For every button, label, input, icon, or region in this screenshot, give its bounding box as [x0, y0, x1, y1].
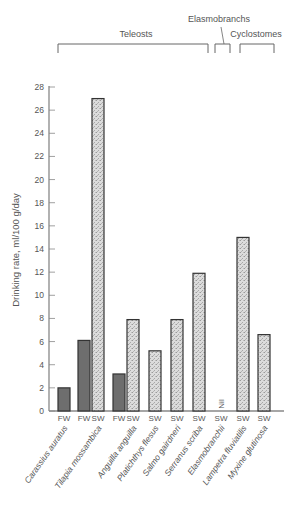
bar-sw: [237, 237, 249, 411]
group-bracket-cyclostomes: Cyclostomes: [230, 29, 282, 53]
y-tick-label: 6: [39, 337, 44, 347]
bar-fw: [113, 374, 125, 411]
bar-sw: [193, 273, 205, 411]
bar-sw: Nil: [217, 399, 226, 409]
medium-label: FW: [113, 414, 126, 423]
medium-label: FW: [58, 414, 71, 423]
group-brackets: TeleostsElasmobranchsCyclostomes: [58, 14, 282, 53]
y-tick-label: 26: [35, 105, 45, 115]
y-tick-label: 28: [35, 82, 45, 92]
medium-label: SW: [149, 414, 162, 423]
group-label: Teleosts: [119, 29, 153, 39]
bar-sw: [149, 351, 161, 411]
x-axis-labels: FWCarassius auratusFWSWTilapia mossambic…: [22, 414, 271, 491]
bars: Nil: [58, 99, 270, 411]
bar-fw: [78, 340, 90, 411]
drinking-rate-chart: TeleostsElasmobranchsCyclostomes 0246810…: [0, 0, 299, 511]
medium-label: SW: [237, 414, 250, 423]
bar-sw: [92, 99, 104, 411]
y-tick-label: 8: [39, 313, 44, 323]
y-tick-label: 0: [39, 406, 44, 416]
bar-sw: [258, 335, 270, 411]
y-tick-label: 12: [35, 267, 45, 277]
medium-label: FW: [78, 414, 91, 423]
group-label: Elasmobranchs: [188, 14, 251, 24]
y-axis-label: Drinking rate, ml/100 g/day: [10, 193, 21, 307]
y-tick-label: 4: [39, 360, 44, 370]
nil-annotation: Nil: [217, 399, 226, 409]
group-bracket-teleosts: Teleosts: [58, 29, 208, 53]
y-tick-label: 2: [39, 383, 44, 393]
medium-label: SW: [258, 414, 271, 423]
medium-label: SW: [171, 414, 184, 423]
y-tick-label: 16: [35, 221, 45, 231]
bar-sw: [127, 320, 139, 411]
y-tick-label: 22: [35, 151, 45, 161]
medium-label: SW: [193, 414, 206, 423]
y-tick-label: 24: [35, 128, 45, 138]
group-label: Cyclostomes: [230, 29, 282, 39]
y-tick-label: 14: [35, 244, 45, 254]
medium-label: SW: [215, 414, 228, 423]
medium-label: SW: [127, 414, 140, 423]
y-tick-label: 20: [35, 175, 45, 185]
y-tick-label: 18: [35, 198, 45, 208]
bar-sw: [171, 320, 183, 411]
y-tick-label: 10: [35, 290, 45, 300]
bar-fw: [58, 388, 70, 411]
medium-label: SW: [92, 414, 105, 423]
